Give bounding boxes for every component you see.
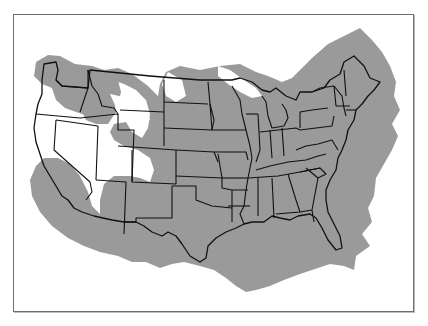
range-shading: [30, 28, 400, 292]
us-range-map: [0, 0, 428, 326]
